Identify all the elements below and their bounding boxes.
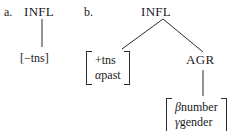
matrix-row-past-text: past [101, 68, 120, 82]
edge-b-infl-to-left-matrix [122, 19, 163, 49]
bracket-right-icon [124, 51, 130, 85]
matrix-row-number: βnumber [175, 100, 218, 115]
matrix-body: βnumber γgender [166, 98, 227, 131]
syntax-tree-figure: a. INFL [−tns] b. INFL +tns αpast AGR βn… [0, 0, 238, 131]
feature-matrix-tns-past: +tns αpast [86, 51, 130, 89]
matrix-rows: βnumber γgender [172, 98, 221, 131]
node-b-agr: AGR [186, 53, 214, 66]
edge-b-infl-to-agr [163, 19, 203, 52]
matrix-row-tns-text: +tns [95, 53, 116, 67]
matrix-row-number-text: number [181, 100, 218, 114]
node-b-infl: INFL [141, 5, 171, 18]
item-label-b: b. [84, 6, 93, 18]
matrix-rows: +tns αpast [92, 51, 124, 85]
bracket-right-icon [221, 98, 227, 131]
item-label-a: a. [4, 6, 12, 18]
matrix-body: +tns αpast [86, 51, 130, 85]
feature-matrix-number-gender: βnumber γgender [166, 98, 227, 131]
matrix-row-tns: +tns [95, 53, 121, 68]
feature-a-tns: [−tns] [20, 52, 49, 64]
node-a-infl: INFL [24, 5, 54, 18]
matrix-row-gender-text: gender [180, 115, 213, 129]
matrix-row-past: αpast [95, 68, 121, 83]
matrix-row-gender: γgender [175, 115, 218, 130]
